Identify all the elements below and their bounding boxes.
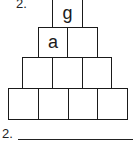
pyramid-cell[interactable] <box>97 88 128 120</box>
pyramid-cell[interactable] <box>82 57 112 89</box>
pyramid-cell[interactable] <box>68 88 98 120</box>
pyramid-cell[interactable] <box>52 57 83 89</box>
pyramid-cell[interactable] <box>38 88 69 120</box>
answer-line[interactable] <box>18 139 133 140</box>
answer-label: 2. <box>2 127 13 140</box>
pyramid-cell[interactable] <box>22 57 53 89</box>
pyramid-cell[interactable] <box>67 27 98 58</box>
problem-number: 2. <box>16 0 27 10</box>
pyramid-cell[interactable] <box>8 88 39 120</box>
pyramid-cell[interactable]: a <box>38 27 68 58</box>
pyramid-cell[interactable]: g <box>52 0 83 28</box>
